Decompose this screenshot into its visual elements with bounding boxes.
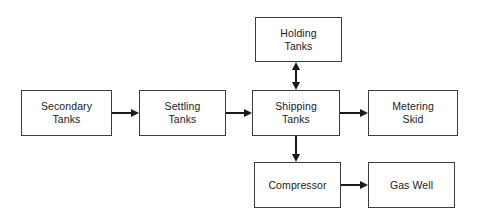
node-compressor[interactable]: Compressor xyxy=(254,162,341,208)
node-label-gas-well: Gas Well xyxy=(390,179,433,192)
node-label-compressor: Compressor xyxy=(268,179,326,192)
connector-shaft xyxy=(341,184,362,186)
node-label-secondary-tanks: Secondary Tanks xyxy=(41,100,92,126)
connector-shaft xyxy=(226,112,246,114)
connector-shaft xyxy=(340,112,362,114)
node-holding-tanks[interactable]: Holding Tanks xyxy=(255,17,342,62)
node-gas-well[interactable]: Gas Well xyxy=(368,162,455,208)
node-label-holding-tanks: Holding Tanks xyxy=(280,27,316,53)
arrowhead-right-icon xyxy=(360,109,368,117)
connector-shaft xyxy=(295,136,297,156)
node-label-settling-tanks: Settling Tanks xyxy=(165,100,201,126)
node-secondary-tanks[interactable]: Secondary Tanks xyxy=(21,90,112,136)
node-metering-skid[interactable]: Metering Skid xyxy=(368,90,458,136)
node-label-shipping-tanks: Shipping Tanks xyxy=(275,100,317,126)
arrowhead-right-icon xyxy=(244,109,252,117)
node-label-metering-skid: Metering Skid xyxy=(392,100,434,126)
arrowhead-down-icon xyxy=(292,82,300,90)
arrowhead-right-icon xyxy=(131,109,139,117)
arrowhead-down-icon xyxy=(292,154,300,162)
node-settling-tanks[interactable]: Settling Tanks xyxy=(139,90,226,136)
connector-shaft xyxy=(112,112,133,114)
arrowhead-right-icon xyxy=(360,181,368,189)
node-shipping-tanks[interactable]: Shipping Tanks xyxy=(252,90,340,136)
flowchart-canvas: Secondary Tanks Settling Tanks Shipping … xyxy=(0,0,477,220)
arrowhead-up-icon xyxy=(292,62,300,70)
